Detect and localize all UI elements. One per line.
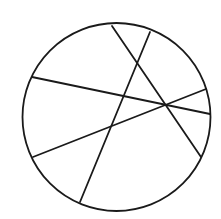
circle-chords-diagram — [0, 0, 221, 219]
chord-3 — [32, 77, 210, 114]
chord-2 — [80, 32, 150, 202]
chords-group — [32, 26, 210, 202]
circle — [23, 23, 211, 211]
chord-4 — [33, 89, 206, 157]
